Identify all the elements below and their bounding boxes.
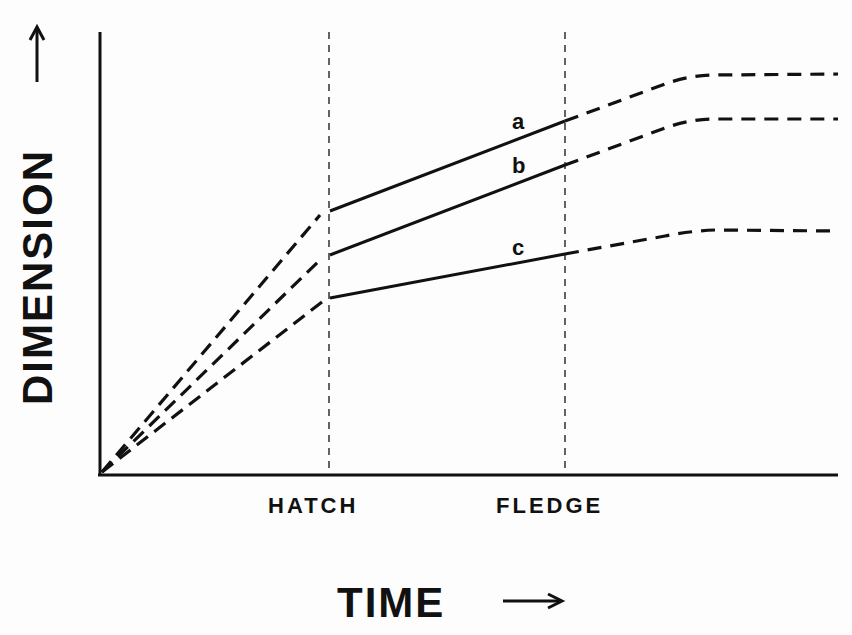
growth-diagram: a b c HATCH FLEDGE TIME DIMENSION (0, 0, 852, 635)
series-b-label: b (512, 153, 525, 178)
series-c-prehatch (102, 302, 322, 472)
up-arrow-icon (30, 27, 44, 82)
x-axis-title: TIME (337, 579, 445, 626)
series-b-prehatch (102, 258, 322, 472)
y-axis-title: DIMENSION (14, 149, 61, 405)
series-b-solid (330, 165, 565, 255)
series-c-label: c (512, 235, 524, 260)
right-arrow-icon (503, 594, 562, 608)
hatch-label: HATCH (268, 493, 358, 518)
series-b-postfledge (565, 119, 838, 165)
series-a-solid (330, 121, 565, 211)
fledge-label: FLEDGE (496, 493, 603, 518)
series-a-label: a (512, 109, 525, 134)
series-c-postfledge (565, 230, 838, 254)
series-a-postfledge (565, 74, 838, 121)
series-c-solid (330, 254, 565, 298)
series-a-prehatch (102, 215, 320, 472)
